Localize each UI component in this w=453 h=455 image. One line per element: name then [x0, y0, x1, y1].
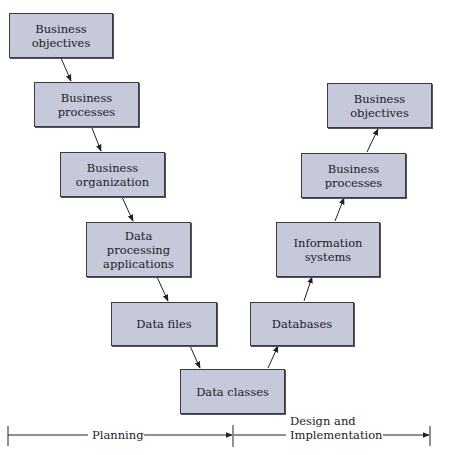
box-data-classes: Data classes: [180, 369, 285, 414]
box-data-processing-applications: Data processing applications: [86, 222, 191, 277]
box-business-objectives-implementation: Business objectives: [327, 83, 432, 128]
box-label: Databases: [272, 317, 332, 331]
box-label: Business processes: [319, 162, 389, 190]
box-label: Data processing applications: [98, 229, 180, 271]
box-label: Data classes: [196, 385, 269, 399]
box-label: Data files: [136, 317, 191, 331]
timeline-design-line2: Implementation: [290, 428, 383, 442]
box-data-files: Data files: [111, 302, 217, 346]
arrow-files-to-classes: [190, 346, 200, 368]
box-business-organization: Business organization: [60, 152, 165, 197]
arrow-objectives-to-processes: [61, 58, 71, 81]
box-label: Information systems: [286, 236, 371, 264]
arrow-organization-to-applications: [122, 197, 133, 221]
box-business-processes-implementation: Business processes: [301, 153, 406, 198]
timeline-design-label: Design and Implementation: [290, 414, 383, 442]
box-business-objectives-planning: Business objectives: [9, 13, 113, 58]
box-label: Business organization: [68, 161, 158, 189]
box-information-systems: Information systems: [276, 222, 380, 277]
arrow-databases-to-infosystems: [304, 277, 312, 301]
timeline-planning-label: Planning: [92, 428, 144, 442]
arrow-infosystems-to-processes: [335, 198, 344, 221]
box-business-processes-planning: Business processes: [34, 82, 139, 127]
arrow-processes-to-organization: [92, 128, 101, 151]
arrow-applications-to-files: [157, 277, 168, 301]
box-databases: Databases: [250, 302, 354, 346]
arrow-processes-to-objectives: [367, 129, 378, 152]
box-label: Business objectives: [26, 22, 96, 50]
timeline-design-line1: Design and: [290, 414, 383, 428]
box-label: Business processes: [52, 91, 122, 119]
arrow-classes-to-databases: [268, 346, 278, 368]
box-label: Business objectives: [345, 92, 415, 120]
